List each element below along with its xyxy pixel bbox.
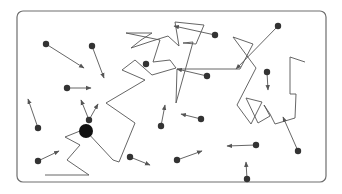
small-particle	[244, 176, 250, 182]
brownian-motion-diagram	[0, 0, 342, 194]
small-particle	[198, 116, 204, 122]
small-particle	[64, 85, 70, 91]
small-particle	[35, 125, 41, 131]
small-particle	[127, 154, 133, 160]
small-particle	[275, 23, 281, 29]
small-particle	[253, 142, 259, 148]
small-particle	[158, 123, 164, 129]
small-particle	[204, 73, 210, 79]
small-particle	[86, 117, 92, 123]
large-particle	[79, 124, 93, 138]
small-particle	[212, 32, 218, 38]
small-particle	[143, 61, 149, 67]
small-particle	[295, 148, 301, 154]
small-particle	[35, 158, 41, 164]
small-particle	[43, 41, 49, 47]
small-particle	[174, 157, 180, 163]
small-particle	[89, 43, 95, 49]
diagram-frame	[17, 11, 326, 182]
small-particle	[264, 69, 270, 75]
diagram-canvas	[0, 0, 342, 194]
